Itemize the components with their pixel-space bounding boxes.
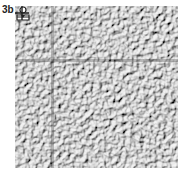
noise-texture [15,6,178,168]
vertical-line [51,6,54,168]
crosshair-icon [15,6,29,20]
horizontal-line [15,59,178,62]
texture-panel [15,6,178,168]
panel-label: 3b [2,4,14,15]
